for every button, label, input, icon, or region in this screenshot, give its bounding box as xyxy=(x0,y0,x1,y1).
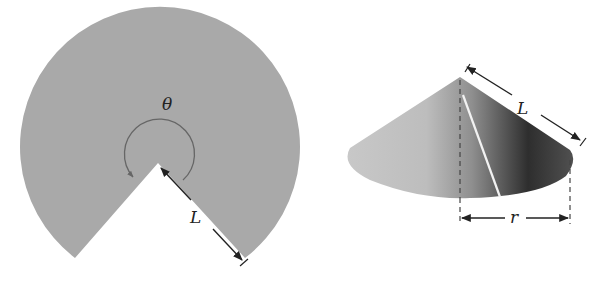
cone xyxy=(348,77,574,198)
cone-r-label: r xyxy=(510,207,519,227)
theta-label: θ xyxy=(162,94,172,114)
diagram-canvas: θ L L r xyxy=(0,0,599,284)
sector-disk xyxy=(20,7,300,258)
cone-L-label: L xyxy=(516,98,528,118)
sector-L-label: L xyxy=(189,207,201,227)
